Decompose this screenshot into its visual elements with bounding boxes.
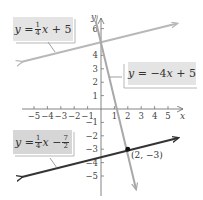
y-tick-labels: 1 2 3 4 6 −1 −2 −3 −4 −5 — [85, 24, 98, 181]
eq2-eq: = — [138, 67, 147, 80]
equation-label-3: y = 14x − 72 — [13, 130, 72, 154]
leader-eq1 — [48, 42, 55, 52]
svg-text:−3: −3 — [85, 144, 98, 154]
equation-label-2: y = −4x + 5 — [128, 62, 196, 85]
svg-text:−2: −2 — [85, 131, 98, 141]
eq3-var: x — [43, 136, 49, 149]
intersection-point — [125, 147, 130, 152]
svg-text:5: 5 — [165, 111, 170, 121]
svg-text:3: 3 — [93, 64, 98, 74]
eq1-var: x — [42, 23, 48, 36]
eq3-lhs: y — [15, 136, 21, 149]
intersection-label: (2, −3) — [131, 150, 163, 160]
eq1-rest: + 5 — [52, 23, 72, 36]
svg-text:−1: −1 — [85, 117, 98, 127]
svg-text:1: 1 — [93, 91, 98, 101]
eq3-fraction-2: 72 — [62, 135, 68, 150]
eq3-fraction-1: 14 — [35, 135, 41, 150]
svg-text:3: 3 — [138, 111, 143, 121]
svg-text:−5: −5 — [85, 171, 98, 181]
eq2-rest: + 5 — [176, 67, 196, 80]
line-neg4x-plus-5 — [96, 22, 136, 189]
y-axis-label: y — [90, 12, 97, 22]
equation-label-1: y = 14x + 5 — [13, 17, 73, 41]
eq3-eq: = — [25, 136, 34, 149]
eq1-fraction: 14 — [35, 22, 41, 37]
svg-text:2: 2 — [93, 77, 98, 87]
eq1-lhs: y — [15, 23, 21, 36]
eq2-var: x — [167, 67, 173, 80]
svg-text:4: 4 — [93, 50, 98, 60]
svg-text:4: 4 — [152, 111, 157, 121]
eq1-eq: = — [24, 23, 33, 36]
svg-text:−2: −2 — [68, 111, 81, 121]
svg-text:−5: −5 — [28, 111, 41, 121]
eq2-coef: −4 — [150, 67, 166, 80]
svg-text:2: 2 — [125, 111, 130, 121]
x-tick-labels: −5 −4 −3 −2 −1 1 2 3 4 5 — [28, 111, 171, 121]
x-axis-label: x — [180, 111, 185, 121]
eq2-lhs: y — [128, 67, 134, 80]
svg-text:−4: −4 — [41, 111, 54, 121]
svg-text:−3: −3 — [55, 111, 68, 121]
eq3-op: − — [52, 136, 61, 149]
svg-text:1: 1 — [112, 111, 117, 121]
leader-eq3 — [50, 158, 57, 168]
